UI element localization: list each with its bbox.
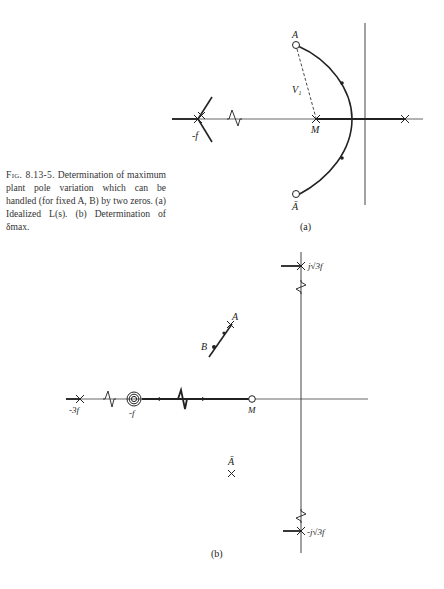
label-minus-j-sqrt3f: -j√3f — [307, 527, 326, 537]
axis-break-icon — [227, 110, 242, 126]
label-A-bar-b: Ā — [227, 456, 235, 467]
label-minus-f: -f — [192, 130, 199, 141]
arrow-AB-icon — [222, 331, 225, 334]
label-minus-f-b: -f — [129, 408, 136, 418]
axis-break-heavy-icon — [176, 390, 189, 409]
panel-a: -f M A Ā V₁ (a) — [172, 23, 423, 233]
root-locus-figures: -f M A Ā V₁ (a) — [0, 0, 444, 589]
label-B: B — [201, 341, 207, 352]
panel-b: -3f -f M A B Ā j√3f — [66, 252, 368, 560]
pole-A-bar-icon — [228, 470, 235, 477]
label-minus-3f: -3f — [69, 405, 80, 415]
zero-A-bar-icon — [293, 191, 300, 198]
axis-break-left-icon — [103, 391, 116, 407]
zero-A-icon — [293, 42, 300, 49]
axis-break-lower-icon — [296, 509, 306, 523]
zero-M-icon — [249, 396, 256, 403]
branch-up — [198, 97, 212, 119]
label-M-b: M — [247, 405, 256, 415]
locus-arc — [298, 46, 352, 195]
label-V1: V₁ — [292, 84, 302, 95]
arrow-left-icon — [156, 397, 160, 401]
label-j-sqrt3f: j√3f — [307, 261, 324, 271]
pole-B-icon — [212, 345, 216, 349]
branch-down — [198, 119, 212, 142]
arrow-up-icon — [340, 81, 344, 85]
panel-a-label: (a) — [300, 221, 311, 233]
label-M: M — [310, 124, 320, 135]
label-A-bar: Ā — [291, 201, 299, 212]
axis-break-upper-icon — [296, 280, 306, 294]
arrow-down-icon — [340, 156, 344, 160]
arrow-right-icon — [202, 397, 206, 401]
label-A-b: A — [231, 311, 239, 322]
panel-b-label: (b) — [211, 548, 223, 560]
label-A: A — [291, 29, 299, 40]
locus-AB — [209, 324, 232, 357]
